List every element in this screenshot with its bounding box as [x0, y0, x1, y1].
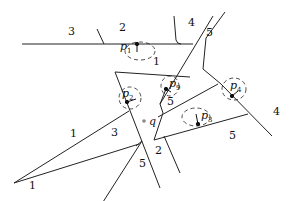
region-label-1: 1 — [29, 180, 36, 191]
point-label-p1: p1 — [120, 41, 132, 55]
region-label-4: 4 — [273, 106, 280, 117]
point-label-p9: p9 — [169, 78, 181, 92]
region-label-4: 4 — [188, 17, 195, 28]
arrangement-diagram: 3 2 4 5 1 1 5 3 2 5 5 4 1 p1 p2 p9 p4 p3… — [0, 0, 291, 201]
region-label-3: 3 — [68, 26, 75, 37]
region-label-5: 5 — [229, 130, 236, 141]
point-label-p3: p3 — [201, 110, 213, 124]
point-label-p4: p4 — [230, 80, 242, 94]
region-label-5: 5 — [167, 96, 174, 107]
region-label-1: 1 — [153, 56, 160, 67]
query-point-label: q — [149, 116, 156, 127]
region-label-2: 2 — [155, 145, 162, 156]
region-label-5: 5 — [206, 27, 213, 38]
region-label-3: 3 — [111, 127, 118, 138]
region-label-5: 5 — [139, 158, 146, 169]
region-label-2: 2 — [119, 22, 126, 33]
region-label-1: 1 — [70, 128, 77, 139]
diagram-lines — [0, 0, 291, 201]
point-label-p2: p2 — [122, 88, 134, 102]
